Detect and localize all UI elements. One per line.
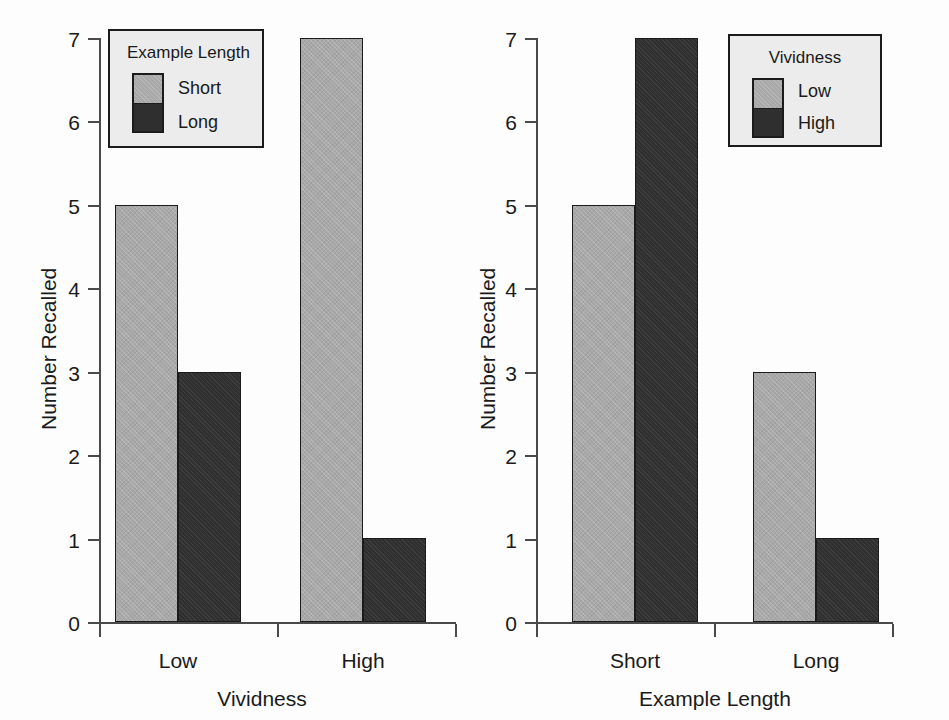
legend-swatch-right [752, 78, 784, 138]
x-tick-mid-left [277, 624, 279, 637]
legend-vividness: Vividness Low High [728, 34, 882, 147]
y-tick-label-4-left: 4 [68, 279, 80, 300]
legend-entry-short: Short [178, 79, 221, 97]
y-tick-4-left: 4 [88, 288, 99, 290]
y-axis-line-right [536, 38, 538, 622]
legend-title-right: Vividness [730, 49, 880, 66]
y-tick-6-left: 6 [88, 121, 99, 123]
legend-swatch-high [754, 108, 782, 136]
chart-panel-right: Number Recalled 7 6 5 4 3 2 1 0 Short Lo… [475, 0, 949, 720]
y-tick-4-right: 4 [525, 288, 536, 290]
bar-long-low [753, 372, 816, 622]
y-tick-label-2-left: 2 [68, 446, 80, 467]
x-tick-start-left [99, 624, 101, 637]
y-tick-label-7-right: 7 [505, 29, 517, 50]
x-axis-title-right: Example Length [639, 688, 791, 709]
x-tick-mid-right [714, 624, 716, 637]
x-category-label-long: Long [793, 650, 840, 671]
bar-high-long [363, 538, 426, 622]
x-tick-end-left [455, 624, 457, 637]
y-axis-line-left [99, 38, 101, 622]
bar-low-short [115, 205, 178, 622]
legend-title-left: Example Length [110, 44, 279, 61]
y-tick-1-left: 1 [88, 539, 99, 541]
legend-swatch-left [132, 73, 164, 133]
bar-short-low [572, 205, 635, 622]
figure-two-bar-charts: Number Recalled 7 6 5 4 3 2 1 0 Low [0, 0, 949, 720]
y-tick-5-right: 5 [525, 205, 536, 207]
y-tick-3-left: 3 [88, 372, 99, 374]
y-tick-2-right: 2 [525, 455, 536, 457]
legend-entry-low: Low [798, 82, 831, 100]
y-tick-label-1-right: 1 [505, 530, 517, 551]
y-tick-label-5-right: 5 [505, 196, 517, 217]
y-tick-5-left: 5 [88, 205, 99, 207]
y-tick-label-6-right: 6 [505, 112, 517, 133]
legend-entry-high: High [798, 114, 835, 132]
y-tick-0-left: 0 [88, 622, 99, 624]
y-tick-0-right: 0 [525, 622, 536, 624]
y-tick-7-right: 7 [525, 38, 536, 40]
y-tick-label-6-left: 6 [68, 112, 80, 133]
y-tick-label-0-left: 0 [68, 613, 80, 634]
bar-long-high [816, 538, 879, 622]
bar-high-short [300, 38, 363, 622]
x-category-label-short: Short [610, 650, 660, 671]
x-axis-title-left: Vividness [217, 688, 307, 709]
bar-short-high [635, 38, 698, 622]
y-axis-title-right: Number Recalled [477, 268, 498, 430]
y-tick-2-left: 2 [88, 455, 99, 457]
x-category-label-high: High [341, 650, 384, 671]
y-tick-6-right: 6 [525, 121, 536, 123]
x-tick-end-right [892, 624, 894, 637]
legend-example-length: Example Length Short Long [108, 29, 264, 148]
chart-panel-left: Number Recalled 7 6 5 4 3 2 1 0 Low [0, 0, 474, 720]
x-tick-start-right [536, 624, 538, 637]
y-tick-label-1-left: 1 [68, 530, 80, 551]
y-tick-label-3-left: 3 [68, 363, 80, 384]
y-axis-title-left: Number Recalled [38, 268, 59, 430]
y-tick-1-right: 1 [525, 539, 536, 541]
legend-entry-long: Long [178, 113, 218, 131]
y-tick-3-right: 3 [525, 372, 536, 374]
y-tick-label-2-right: 2 [505, 446, 517, 467]
bar-low-long [178, 372, 241, 622]
y-tick-label-5-left: 5 [68, 196, 80, 217]
y-tick-label-4-right: 4 [505, 279, 517, 300]
y-tick-label-0-right: 0 [505, 613, 517, 634]
y-tick-label-3-right: 3 [505, 363, 517, 384]
y-tick-7-left: 7 [88, 38, 99, 40]
legend-swatch-low [754, 80, 782, 108]
legend-swatch-short [134, 75, 162, 103]
y-tick-label-7-left: 7 [68, 29, 80, 50]
x-category-label-low: Low [159, 650, 198, 671]
legend-swatch-long [134, 103, 162, 131]
